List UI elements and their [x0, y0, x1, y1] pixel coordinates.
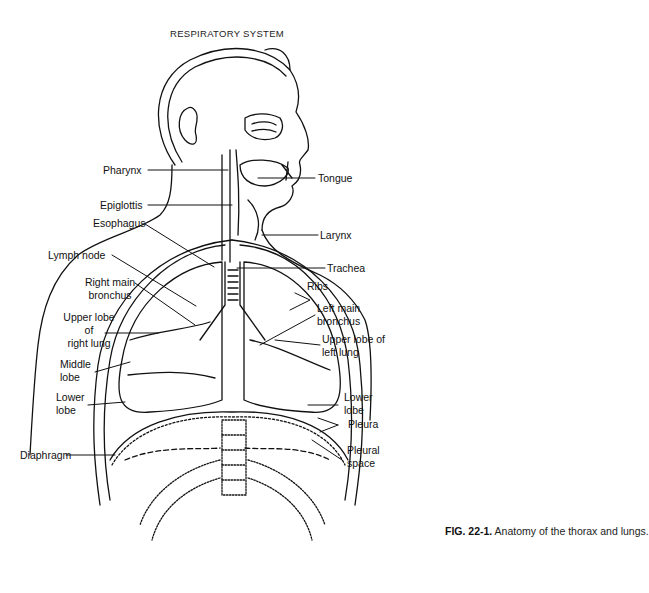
label-pleural-space: Pleural space [347, 444, 380, 470]
label-trachea: Trachea [327, 262, 365, 275]
label-lower-lobe-left: Lower lobe [344, 391, 373, 417]
label-tongue: Tongue [318, 172, 352, 185]
trachea [200, 262, 265, 340]
spine [222, 420, 246, 495]
lower-ribs [140, 460, 325, 540]
label-upper-lobe-left: Upper lobe of left lung [322, 333, 385, 359]
label-diaphragm: Diaphragm [20, 449, 71, 462]
label-middle-lobe: Middle lobe [60, 358, 91, 384]
figure-caption: FIG. 22-1. Anatomy of the thorax and lun… [445, 525, 649, 537]
figure-caption-text: Anatomy of the thorax and lungs. [495, 525, 649, 537]
label-pharynx: Pharynx [103, 164, 142, 177]
label-right-main-bronchus: Right main bronchus [80, 276, 140, 302]
label-pleura: Pleura [348, 418, 378, 431]
label-upper-lobe-right: Upper lobe of right lung [58, 311, 120, 350]
label-lymph-node: Lymph node [48, 249, 105, 262]
label-lower-lobe-right: Lower lobe [56, 391, 85, 417]
label-ribs: Ribs [307, 280, 328, 293]
label-left-main-bronchus: Left main bronchus [317, 302, 360, 328]
head-outline [158, 49, 308, 230]
label-larynx: Larynx [320, 229, 352, 242]
figure-number: FIG. 22-1. [445, 525, 492, 537]
label-esophagus: Esophagus [93, 217, 146, 230]
label-epiglottis: Epiglottis [100, 199, 143, 212]
